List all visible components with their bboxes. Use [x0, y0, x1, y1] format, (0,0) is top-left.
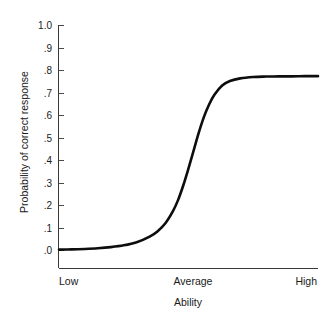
chart-figure: 1.0 .9 .8 .7 .6 .5 .4 .3 .2 .1 .0 Low Av…: [0, 0, 333, 321]
y-tick-label: .6: [44, 110, 53, 121]
item-characteristic-curve-chart: 1.0 .9 .8 .7 .6 .5 .4 .3 .2 .1 .0 Low Av…: [0, 0, 333, 321]
y-tick-label: .9: [44, 43, 53, 54]
y-tick-label: .8: [44, 65, 53, 76]
y-tick-label: .5: [44, 133, 53, 144]
y-tick-label: 1.0: [38, 20, 52, 31]
y-axis-title: Probability of correct response: [18, 71, 30, 213]
x-axis-title: Ability: [174, 296, 203, 308]
x-tick-label-average: Average: [174, 275, 213, 287]
y-tick-label: .1: [44, 223, 53, 234]
x-tick-label-low: Low: [59, 275, 79, 287]
y-tick-label: .3: [44, 178, 53, 189]
y-tick-label: .2: [44, 200, 53, 211]
y-tick-label: .7: [44, 88, 53, 99]
x-tick-label-high: High: [295, 275, 317, 287]
y-tick-label: .4: [44, 155, 53, 166]
y-tick-label: .0: [44, 245, 53, 256]
